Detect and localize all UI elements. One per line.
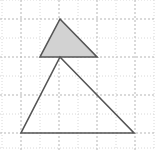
geometry-figure-canvas [0,0,155,150]
figure-svg [0,0,155,150]
